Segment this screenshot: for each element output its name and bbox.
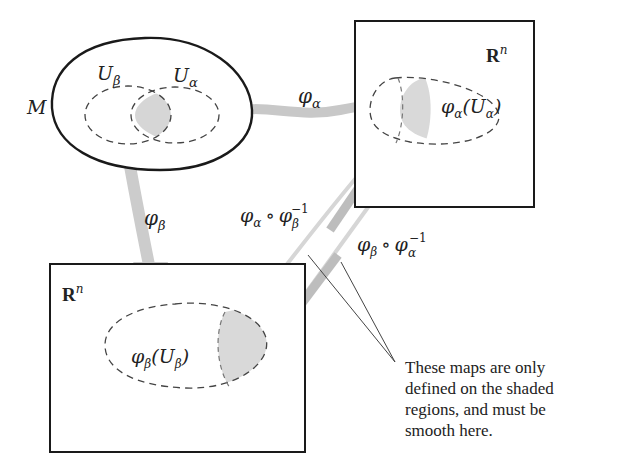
pointer-line-2 bbox=[341, 262, 395, 362]
svg-text:defined on the shaded: defined on the shaded bbox=[405, 379, 554, 398]
svg-text:regions, and must be: regions, and must be bbox=[405, 400, 546, 419]
annotation-text: These maps are only defined on the shade… bbox=[405, 358, 554, 440]
label-phi-beta: φβ bbox=[144, 206, 166, 233]
pointer-line-1 bbox=[308, 255, 395, 362]
label-transition-beta-alpha: φβ∘φα−1 bbox=[357, 231, 427, 260]
manifold-diagram: M Uβ Uα φα φβ Rn Rn φα(Uα) φβ(Uβ) φα∘φβ−… bbox=[0, 0, 636, 471]
label-phi-alpha: φα bbox=[298, 84, 321, 111]
label-M: M bbox=[26, 96, 47, 118]
manifold-M bbox=[52, 38, 252, 170]
svg-text:These maps are only: These maps are only bbox=[405, 358, 546, 377]
label-transition-alpha-beta: φα∘φβ−1 bbox=[240, 202, 309, 231]
svg-text:smooth here.: smooth here. bbox=[405, 421, 493, 440]
